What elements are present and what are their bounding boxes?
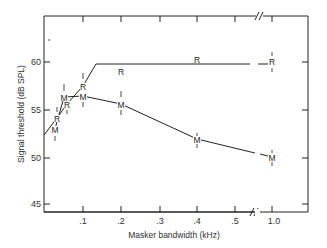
x-tick-labels: .1 .2 .3 .4 .5 1.0 xyxy=(79,216,280,226)
x-ticks xyxy=(83,16,272,212)
break-gap xyxy=(255,209,260,215)
m-marker: M xyxy=(51,125,58,135)
plot-frame xyxy=(44,16,308,212)
y-axis-title: Signal threshold (dB SPL) xyxy=(16,65,26,163)
x-tick-0.1: .1 xyxy=(79,216,87,226)
m-marker: M xyxy=(117,100,124,110)
r-marker: R xyxy=(194,55,200,65)
stray-dot xyxy=(48,39,50,41)
x-tick-0.5: .5 xyxy=(231,216,239,226)
x-tick-0.2: .2 xyxy=(117,216,125,226)
m-curve-line xyxy=(55,96,255,153)
r-marker: R xyxy=(54,114,60,124)
m-marker: M xyxy=(79,92,86,102)
x-tick-0.3: .3 xyxy=(156,216,164,226)
r-marker: R xyxy=(269,57,275,67)
y-tick-labels: 60 55 50 45 xyxy=(31,57,41,209)
r-marker: R xyxy=(80,82,86,92)
x-tick-1.0: 1.0 xyxy=(268,216,281,226)
y-tick-50: 50 xyxy=(31,153,41,163)
y-tick-45: 45 xyxy=(31,199,41,209)
chart: 60 55 50 45 .1 .2 .3 .4 .5 1.0 Masker ba… xyxy=(0,0,327,248)
r-series-markers: R R R R R R xyxy=(54,55,276,124)
x-tick-0.4: .4 xyxy=(193,216,201,226)
axis-break-marks xyxy=(250,12,263,216)
r-marker: R xyxy=(64,100,70,110)
m-series-markers: M M M M M M xyxy=(51,92,276,163)
x-axis-title: Masker bandwidth (kHz) xyxy=(128,230,220,240)
m-curve-line-after-break xyxy=(260,154,268,156)
m-marker: M xyxy=(193,135,200,145)
y-tick-55: 55 xyxy=(31,105,41,115)
r-marker: R xyxy=(118,67,124,77)
r-curve-line xyxy=(44,64,250,135)
y-tick-60: 60 xyxy=(31,57,41,67)
m-marker: M xyxy=(268,153,275,163)
